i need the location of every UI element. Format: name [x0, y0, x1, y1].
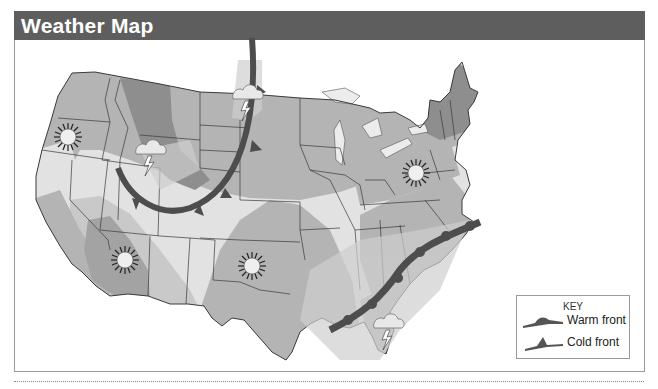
cold-front-icon — [521, 334, 565, 352]
key-label-cold-front: Cold front — [567, 335, 619, 349]
sun-icon — [238, 252, 266, 280]
map-key: KEY Warm front Cold front — [516, 295, 630, 359]
warm-front-icon — [521, 312, 565, 330]
divider — [14, 381, 644, 382]
sun-icon — [111, 246, 139, 274]
key-title: KEY — [517, 301, 629, 312]
sun-icon — [54, 123, 82, 151]
sun-icon — [402, 159, 430, 187]
key-label-warm-front: Warm front — [567, 313, 626, 327]
